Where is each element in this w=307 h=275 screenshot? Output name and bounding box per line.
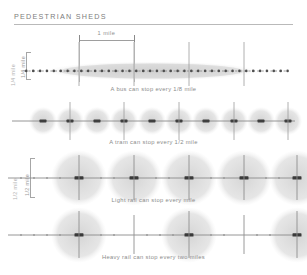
scale-dimension-label: 1 mile: [78, 30, 135, 37]
figure-title-block: PEDESTRIAN SHEDS: [14, 12, 293, 21]
caption-bus: A bus can stop every 1/8 mile: [0, 85, 307, 93]
caption-heavy-rail: Heavy rail can stop every two miles: [0, 253, 307, 261]
caption-light-rail: Light rail can stop every mile: [0, 196, 307, 204]
shed-row-bus: A bus can stop every 1/8 mile: [0, 52, 307, 94]
shed-row-heavy-rail: Heavy rail can stop every two miles: [0, 211, 307, 267]
scale-dimension-bar: [79, 40, 134, 41]
page-title: PEDESTRIAN SHEDS: [14, 12, 293, 21]
shed-diagram-light-rail: [0, 155, 307, 201]
shed-row-tram: A tram can stop every 1/2 mile: [0, 100, 307, 148]
scale-dimension-one-mile: 1 mile: [78, 30, 135, 52]
shed-diagram-heavy-rail: [0, 211, 307, 259]
title-divider: [14, 24, 293, 25]
shed-diagram-tram: [0, 100, 307, 142]
shed-row-light-rail: Light rail can stop every mile: [0, 155, 307, 207]
shed-diagram-bus: [0, 52, 307, 88]
caption-tram: A tram can stop every 1/2 mile: [0, 138, 307, 146]
pedestrian-sheds-figure: PEDESTRIAN SHEDS 1 mile 1/4 mile 1/4 mil…: [0, 0, 307, 275]
